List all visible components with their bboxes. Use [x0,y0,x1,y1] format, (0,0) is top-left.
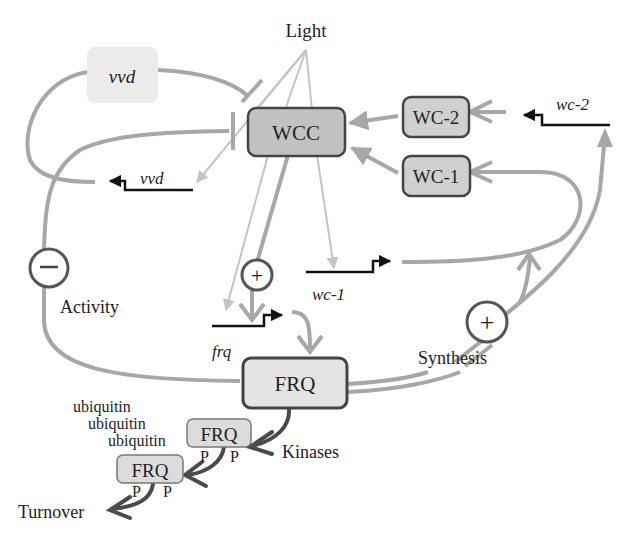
plus-sign-circle-frq: + [242,260,272,290]
minus-sign-circle [30,249,68,287]
ubiquitin-label-1: ubiquitin [73,398,131,416]
synthesis-label: Synthesis [418,348,487,368]
svg-text:+: + [480,308,495,337]
wcc-frq-activation [240,155,288,320]
wcc-protein-box: WCC [248,108,345,156]
plus-sign-circle-synthesis: + [467,302,507,342]
phospho-label-p1b: P [230,448,239,465]
wc2-protein-box: WC-2 [403,97,469,137]
wc1-gene-line [306,261,390,272]
svg-text:WC-2: WC-2 [413,107,459,128]
ubiquitin-label-3: ubiquitin [108,432,166,450]
ubiquitin-label-2: ubiquitin [88,415,146,433]
phospho-label-p2a: P [132,483,141,500]
vvd-gene-label: vvd [140,169,164,188]
svg-text:FRQ: FRQ [132,460,169,481]
light-label: Light [285,20,327,41]
svg-text:WCC: WCC [272,121,320,145]
phospho-label-p2b: P [163,483,172,500]
vvd-inhibition-loop [27,70,262,381]
wc1-gene-label: wc-1 [312,285,345,304]
frq-gene-label: frq [212,342,232,361]
gene-promoters [110,115,610,326]
svg-text:vvd: vvd [109,66,136,87]
wc1-protein-box: WC-1 [403,156,470,196]
svg-text:FRQ: FRQ [275,372,316,396]
wc2-gene-line [524,115,610,125]
frq-phospho-box-1: FRQ [187,419,251,447]
frq-protein-box: FRQ [243,358,347,408]
phospho-label-p1a: P [200,448,209,465]
turnover-label: Turnover [18,502,84,522]
svg-text:WC-1: WC-1 [413,166,459,187]
frq-phospho-box-2: FRQ [117,455,183,483]
svg-text:FRQ: FRQ [201,424,238,445]
clock-diagram: vvd WCC WC-2 WC-1 FRQ FRQ FRQ + + Light … [0,0,629,541]
vvd-protein-box: vvd [87,47,158,103]
svg-text:+: + [251,263,263,288]
wc2-gene-label: wc-2 [556,95,590,114]
activity-label: Activity [60,297,119,317]
kinases-label: Kinases [282,442,339,462]
